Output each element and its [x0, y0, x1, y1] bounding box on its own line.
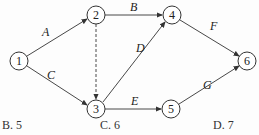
- diagram-canvas: 1 2 3 4 5 6 A C B D E F G: [0, 0, 259, 135]
- edge-A-label: A: [41, 25, 50, 39]
- edge-G-label: G: [203, 78, 212, 92]
- option-d: D. 7: [213, 118, 234, 133]
- node-2-label: 2: [93, 8, 99, 22]
- edge-F-label: F: [209, 19, 218, 33]
- edge-A: [27, 19, 87, 56]
- node-6-label: 6: [244, 54, 250, 68]
- node-4-label: 4: [169, 8, 175, 22]
- edge-B-label: B: [130, 0, 138, 14]
- edge-D: [103, 22, 165, 102]
- node-1-label: 1: [16, 54, 22, 68]
- network-diagram: 1 2 3 4 5 6 A C B D E F G B. 5 C. 6 D. 7: [0, 0, 259, 135]
- option-c: C. 6: [100, 118, 120, 133]
- edge-C-label: C: [47, 68, 56, 82]
- node-3-label: 3: [93, 102, 99, 116]
- edge-E-label: E: [130, 94, 139, 108]
- edge-D-label: D: [135, 41, 145, 55]
- option-b: B. 5: [2, 118, 22, 133]
- node-5-label: 5: [168, 102, 174, 116]
- edge-C: [27, 66, 87, 105]
